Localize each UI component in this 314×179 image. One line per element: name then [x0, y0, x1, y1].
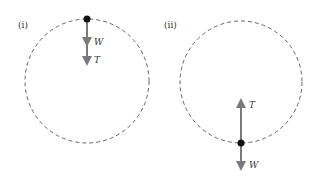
diagram-ii-label: (ii): [164, 20, 177, 30]
tension-label: T: [249, 100, 256, 110]
weight-label: W: [249, 160, 259, 170]
mass-point: [84, 16, 91, 23]
tension-label: T: [94, 55, 101, 65]
mass-point: [238, 140, 245, 147]
diagram-i-label: (i): [18, 20, 28, 30]
diagram-canvas: (i) W T (ii) T W: [0, 0, 314, 179]
weight-label: W: [94, 37, 104, 47]
diagram-ii: (ii) T W: [164, 20, 302, 170]
diagram-i: (i) W T: [18, 16, 149, 144]
